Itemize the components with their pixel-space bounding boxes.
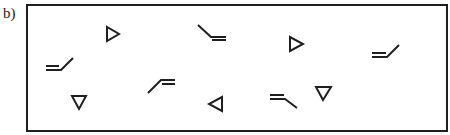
hook-equals-slash-icon	[372, 45, 399, 57]
triangle-right-icon	[290, 37, 303, 51]
hook-equals-slash-icon	[46, 58, 73, 70]
triangle-left-icon	[209, 97, 222, 111]
hook-slash-equals-icon	[148, 80, 175, 93]
symbol-layer	[0, 0, 450, 135]
triangle-down-icon	[72, 96, 86, 109]
hook-equals-backslash-icon	[270, 95, 297, 108]
triangle-down-icon	[316, 87, 331, 100]
triangle-right-icon	[107, 27, 119, 41]
hook-backslash-equals-icon	[198, 25, 226, 40]
